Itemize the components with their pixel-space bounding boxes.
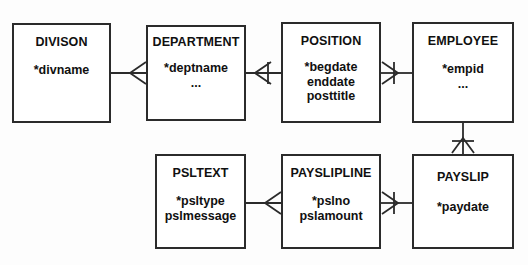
- relationship-department-position[interactable]: [246, 62, 281, 84]
- entity-psltext-attributes: *psltype pslmessage: [165, 194, 237, 223]
- entity-position-title: POSITION: [301, 34, 362, 48]
- entity-position[interactable]: POSITION *begdate enddate posttitle: [281, 22, 381, 123]
- entity-paysliline-attributes: *pslno pslamount: [299, 194, 362, 223]
- attribute: *empid: [442, 62, 484, 77]
- relationship-employee-payslip[interactable]: [452, 123, 474, 154]
- relationship-division-department[interactable]: [111, 62, 146, 84]
- entity-department[interactable]: DEPARTMENT *deptname ...: [146, 25, 246, 121]
- relationship-paysliline-payslip[interactable]: [381, 192, 412, 214]
- attribute: ...: [164, 76, 228, 91]
- entity-employee-attributes: *empid ...: [442, 62, 484, 91]
- attribute: *deptname: [164, 61, 228, 76]
- entity-position-attributes: *begdate enddate posttitle: [305, 60, 358, 104]
- attribute: *psltype: [165, 194, 237, 209]
- relationship-position-employee[interactable]: [381, 62, 412, 84]
- attribute: pslamount: [299, 209, 362, 224]
- attribute: *divname: [34, 63, 90, 78]
- entity-employee-title: EMPLOYEE: [428, 34, 498, 48]
- attribute: posttitle: [305, 89, 358, 104]
- attribute: *pslno: [299, 194, 362, 209]
- entity-department-attributes: *deptname ...: [164, 61, 228, 90]
- entity-payslip-title: PAYSLIP: [437, 170, 489, 184]
- attribute: ...: [442, 77, 484, 92]
- entity-paysliline[interactable]: PAYSLIPLINE *pslno pslamount: [281, 154, 381, 249]
- entity-division-title: DIVISON: [35, 35, 87, 49]
- attribute: *begdate: [305, 60, 358, 75]
- attribute: pslmessage: [165, 209, 237, 224]
- entity-division[interactable]: DIVISON *divname: [12, 23, 111, 123]
- entity-division-attributes: *divname: [34, 63, 90, 78]
- relationship-psltext-paysliline[interactable]: [246, 192, 281, 214]
- entity-department-title: DEPARTMENT: [153, 35, 240, 49]
- entity-psltext-title: PSLTEXT: [172, 166, 228, 180]
- er-diagram: DIVISON *divname DEPARTMENT *deptname ..…: [0, 0, 528, 265]
- entity-employee[interactable]: EMPLOYEE *empid ...: [412, 22, 514, 123]
- entity-payslip-attributes: *paydate: [437, 200, 489, 215]
- attribute: *paydate: [437, 200, 489, 215]
- entity-payslip[interactable]: PAYSLIP *paydate: [412, 154, 514, 249]
- attribute: enddate: [305, 75, 358, 90]
- entity-paysliline-title: PAYSLIPLINE: [291, 166, 372, 180]
- entity-psltext[interactable]: PSLTEXT *psltype pslmessage: [155, 154, 246, 249]
